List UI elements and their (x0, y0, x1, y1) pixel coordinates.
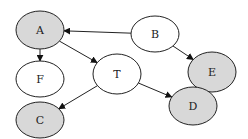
edge-t-to-d (138, 83, 171, 97)
node-label: C (36, 114, 44, 127)
edge-b-to-e (173, 46, 193, 60)
node-a: A (16, 11, 64, 49)
node-d: D (169, 87, 217, 125)
edge-b-to-a (64, 31, 131, 33)
node-t: T (93, 54, 141, 94)
node-label: B (151, 28, 159, 41)
node-c: C (16, 102, 64, 138)
node-e: E (188, 52, 236, 92)
node-label: A (35, 24, 45, 37)
node-label: D (189, 100, 198, 113)
node-label: T (113, 68, 121, 81)
nodes: ABEFTCD (16, 11, 236, 138)
graph-diagram: ABEFTCD (0, 0, 248, 139)
node-label: E (208, 66, 216, 79)
node-label: F (36, 73, 44, 86)
node-f: F (16, 61, 64, 97)
node-b: B (131, 16, 179, 52)
edge-a-to-t (59, 41, 97, 63)
edge-t-to-c (59, 86, 98, 109)
